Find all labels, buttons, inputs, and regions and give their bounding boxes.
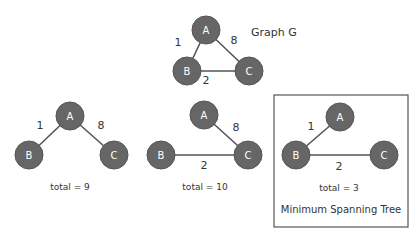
weight-b-c: 2 — [336, 160, 343, 173]
weight-a-b: 1 — [37, 119, 44, 132]
node-c-label: C — [111, 150, 118, 161]
total-label: total = 9 — [50, 182, 90, 192]
graph-g: 1 8 2 A B C Graph G — [173, 16, 297, 87]
mst-caption: Minimum Spanning Tree — [281, 204, 402, 215]
total-label: total = 3 — [319, 183, 359, 193]
node-c-label: C — [246, 66, 253, 77]
spanning-tree-1: 1 8 A B C total = 9 — [15, 102, 128, 192]
node-b-label: B — [26, 150, 33, 161]
weight-a-c: 8 — [233, 121, 240, 134]
weight-a-c: 8 — [98, 119, 105, 132]
graph-title: Graph G — [251, 26, 297, 39]
node-c-label: C — [381, 150, 388, 161]
node-c-label: C — [245, 150, 252, 161]
mst-diagram: 1 8 2 A B C Graph G 1 8 A B C total = 9 … — [0, 0, 420, 234]
minimum-spanning-tree: 1 2 A B C total = 3 Minimum Spanning Tre… — [274, 95, 408, 227]
weight-a-b: 1 — [308, 120, 315, 133]
node-a-label: A — [337, 112, 344, 123]
weight-a-c: 8 — [231, 34, 238, 47]
weight-b-c: 2 — [203, 74, 210, 87]
weight-a-b: 1 — [175, 36, 182, 49]
weight-b-c: 2 — [201, 159, 208, 172]
node-b-label: B — [158, 150, 165, 161]
total-label: total = 10 — [182, 182, 228, 192]
node-b-label: B — [184, 66, 191, 77]
node-a-label: A — [67, 111, 74, 122]
node-a-label: A — [203, 25, 210, 36]
spanning-tree-2: 8 2 A B C total = 10 — [147, 101, 262, 192]
node-b-label: B — [293, 150, 300, 161]
node-a-label: A — [201, 110, 208, 121]
